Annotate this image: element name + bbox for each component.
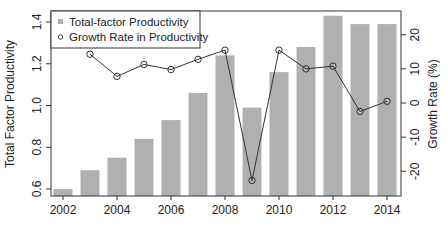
x-tick-label: 2004	[104, 203, 131, 217]
bar-2005	[135, 139, 154, 196]
bar-2009	[243, 108, 262, 196]
y2-tick-label: -10	[408, 128, 422, 146]
y-tick-label: 0.6	[30, 180, 44, 197]
y2-tick-label: -20	[408, 162, 422, 180]
line-series	[87, 47, 390, 184]
legend-label-growth: Growth Rate in Productivity	[69, 31, 209, 43]
x-tick-label: 2012	[320, 203, 347, 217]
x-tick-label: 2010	[266, 203, 293, 217]
combo-chart: 2002200420062008201020122014 0.60.81.01.…	[0, 0, 448, 227]
bar-2014	[378, 24, 397, 196]
bar-2008	[216, 55, 235, 196]
y-tick-label: 1.2	[30, 55, 44, 72]
bar-2003	[81, 170, 100, 196]
bar-2013	[351, 24, 370, 196]
y-tick-label: 0.8	[30, 139, 44, 156]
y-axis-right-label: Growth Rate (%)	[426, 59, 440, 148]
y2-tick-label: 0	[408, 99, 422, 106]
bar-2010	[270, 72, 289, 196]
y-axis-right: -20-1001020	[401, 28, 422, 180]
legend: Total-factor Productivity Growth Rate in…	[51, 11, 209, 48]
bar-2006	[162, 120, 181, 196]
y2-tick-label: 20	[408, 28, 422, 42]
bar-2004	[108, 158, 127, 196]
x-tick-label: 2008	[212, 203, 239, 217]
bar-2002	[54, 189, 73, 196]
y-axis-left-label: Total Factor Productivity	[3, 40, 17, 168]
bar-2011	[297, 47, 316, 196]
y-axis-left: 0.60.81.01.21.4	[30, 13, 51, 197]
x-tick-label: 2002	[50, 203, 77, 217]
x-axis: 2002200420062008201020122014	[50, 196, 401, 217]
legend-label-tfp: Total-factor Productivity	[69, 16, 189, 28]
y-tick-label: 1.0	[30, 97, 44, 114]
legend-bar-swatch-icon	[58, 19, 63, 24]
bar-2012	[324, 16, 343, 196]
bar-2007	[189, 93, 208, 196]
y2-tick-label: 10	[408, 62, 422, 76]
x-tick-label: 2006	[158, 203, 185, 217]
x-tick-label: 2014	[374, 203, 401, 217]
chart-container: 2002200420062008201020122014 0.60.81.01.…	[0, 0, 448, 227]
y-tick-label: 1.4	[30, 13, 44, 30]
